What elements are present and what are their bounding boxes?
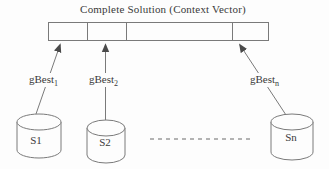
sn-label: Sn xyxy=(285,131,297,143)
gbest1-label: gBest1 xyxy=(27,73,62,88)
context-vector-diagram: Complete Solution (Context Vector) gBest… xyxy=(0,0,329,169)
swarm-cylinder-s2: S2 xyxy=(87,120,125,163)
gbest2-label: gBest2 xyxy=(87,73,122,88)
s1-top xyxy=(17,114,61,130)
swarm-cylinder-s1: S1 xyxy=(17,114,61,158)
diagram-canvas: Complete Solution (Context Vector) gBest… xyxy=(0,0,329,169)
sn-top xyxy=(271,114,313,130)
s1-label: S1 xyxy=(30,134,42,146)
s2-label: S2 xyxy=(99,136,111,148)
context-vector-outline xyxy=(49,23,269,41)
swarm-cylinder-sn: Sn xyxy=(271,114,313,160)
gbestn-label: gBestn xyxy=(248,73,285,88)
context-vector-bar xyxy=(49,23,269,41)
s2-top xyxy=(87,120,125,136)
diagram-title: Complete Solution (Context Vector) xyxy=(80,3,246,16)
